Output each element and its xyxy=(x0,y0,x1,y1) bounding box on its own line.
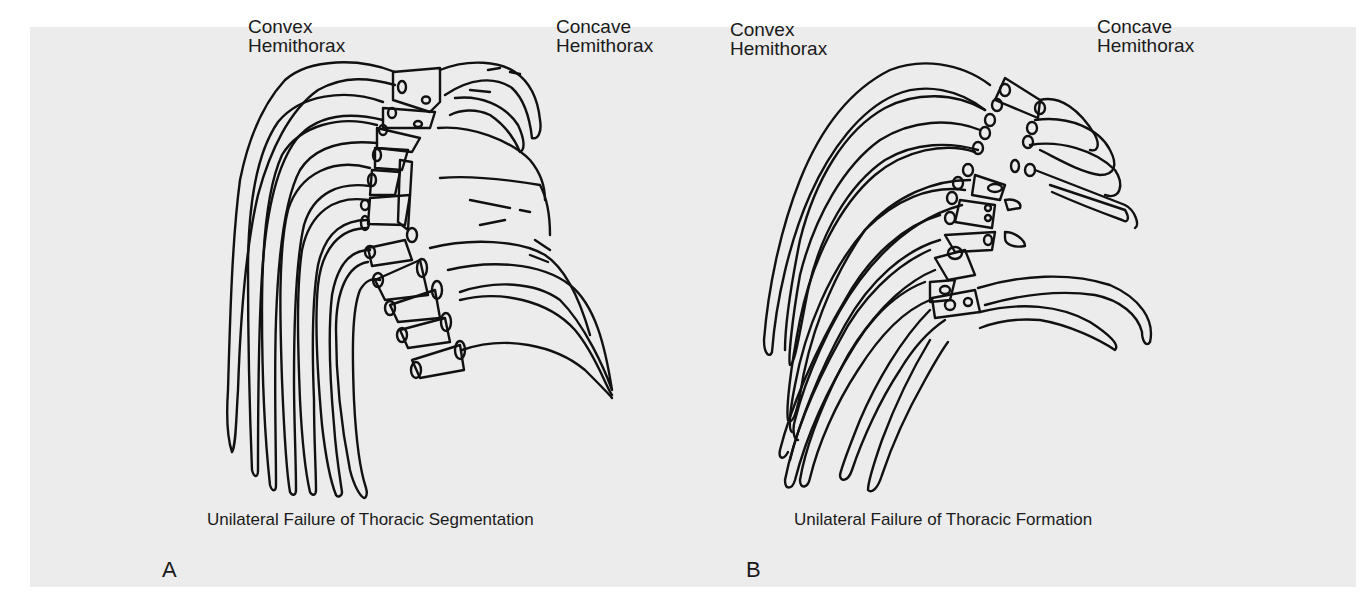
caption-b: Unilateral Failure of Thoracic Formation xyxy=(794,510,1092,530)
panel-letter-b: B xyxy=(746,557,761,583)
rib-cage-formation-diagram xyxy=(0,0,1362,616)
